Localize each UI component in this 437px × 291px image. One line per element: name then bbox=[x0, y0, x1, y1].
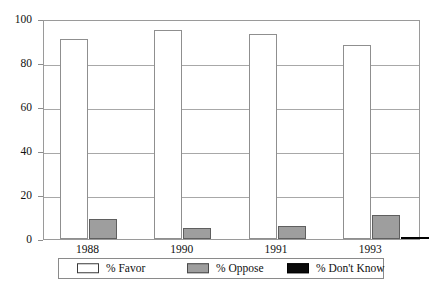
bar bbox=[401, 237, 429, 239]
legend-label: % Favor bbox=[106, 263, 145, 275]
x-tick-label: 1990 bbox=[170, 243, 193, 257]
bar-group bbox=[138, 21, 232, 239]
x-tick-label: 1993 bbox=[359, 243, 382, 257]
y-axis: 020406080100 bbox=[0, 20, 38, 240]
y-tick-label: 100 bbox=[15, 14, 32, 26]
bar-group bbox=[233, 21, 327, 239]
bar bbox=[278, 226, 306, 239]
swatch-black-fill-icon bbox=[287, 264, 309, 274]
bar bbox=[183, 228, 211, 239]
x-tick-label: 1991 bbox=[265, 243, 288, 257]
y-tick-label: 0 bbox=[26, 234, 32, 246]
x-tick-label: 1988 bbox=[76, 243, 99, 257]
bar-group bbox=[44, 21, 138, 239]
swatch-white-outline-icon bbox=[77, 264, 99, 274]
chart-legend: % Favor% Oppose% Don't Know bbox=[58, 258, 384, 279]
y-tick-label: 20 bbox=[21, 190, 33, 202]
bar bbox=[249, 34, 277, 239]
y-tick-mark bbox=[38, 240, 43, 241]
bar-group bbox=[327, 21, 421, 239]
legend-item[interactable]: % Don't Know bbox=[287, 263, 385, 275]
y-tick-label: 40 bbox=[21, 146, 33, 158]
x-axis: 1988199019911993 bbox=[43, 243, 420, 259]
legend-item[interactable]: % Oppose bbox=[187, 263, 264, 275]
legend-label: % Oppose bbox=[216, 263, 264, 275]
y-tick-label: 60 bbox=[21, 102, 33, 114]
legend-item[interactable]: % Favor bbox=[77, 263, 145, 275]
bar bbox=[154, 30, 182, 239]
bar bbox=[343, 45, 371, 239]
y-tick-label: 80 bbox=[21, 58, 33, 70]
bar bbox=[60, 39, 88, 239]
bar bbox=[372, 215, 400, 239]
bar bbox=[89, 219, 117, 239]
legend-label: % Don't Know bbox=[316, 263, 385, 275]
bar-chart-figure: 020406080100 1988199019911993 % Favor% O… bbox=[0, 0, 437, 291]
plot-area bbox=[43, 20, 420, 240]
swatch-gray-fill-icon bbox=[187, 264, 209, 274]
